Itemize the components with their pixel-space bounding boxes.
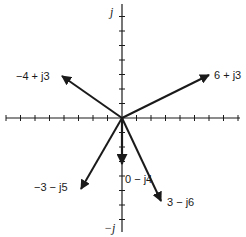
vector-label: −3 − j5 (34, 181, 68, 193)
vector-neg3-minus-j5: −3 − j5 (34, 118, 122, 193)
phasor-diagram: −4 + j3 6 + j3 −3 − j5 0 − j4 3 − j6 j −… (0, 0, 246, 237)
vector-label: 6 + j3 (214, 69, 241, 81)
vector-label: 3 − j6 (167, 196, 194, 208)
vector-6-plus-j3: 6 + j3 (122, 69, 241, 118)
vector-label: −4 + j3 (16, 70, 50, 82)
imaginary-negative-label: −j (104, 221, 116, 235)
imaginary-positive-label: j (108, 5, 114, 19)
vector-3-minus-j6: 3 − j6 (122, 118, 194, 208)
vector-neg4-plus-j3: −4 + j3 (16, 70, 122, 118)
